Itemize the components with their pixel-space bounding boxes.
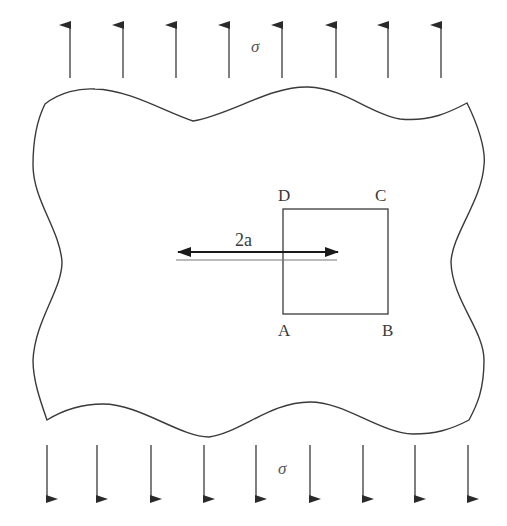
- corner-label-d: D: [278, 187, 290, 204]
- bottom-tension-arrows: [47, 445, 468, 499]
- sigma-label-top: σ: [251, 38, 259, 55]
- contour-abcd: [283, 209, 388, 314]
- crack-length-label: 2a: [235, 231, 252, 249]
- corner-label-c: C: [375, 187, 386, 204]
- corner-label-b: B: [382, 322, 393, 339]
- sigma-label-bottom: σ: [278, 460, 286, 477]
- diagram-canvas: [0, 0, 507, 526]
- plate-outline: [33, 87, 484, 437]
- crack-plate-diagram: σ σ D C A B 2a: [0, 0, 507, 526]
- corner-label-a: A: [278, 322, 290, 339]
